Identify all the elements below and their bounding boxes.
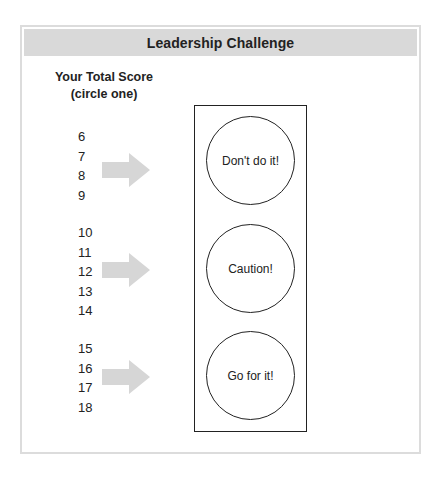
light-caution-label: Caution! bbox=[228, 262, 273, 276]
arrow-right-icon bbox=[102, 153, 150, 187]
panel-title: Leadership Challenge bbox=[24, 29, 417, 56]
light-stop: Don't do it! bbox=[206, 116, 295, 205]
traffic-light-box: Don't do it! Caution! Go for it! bbox=[194, 105, 307, 432]
light-stop-label: Don't do it! bbox=[222, 154, 279, 168]
score-15[interactable]: 15 bbox=[78, 339, 118, 359]
light-go-label: Go for it! bbox=[227, 369, 273, 383]
light-go: Go for it! bbox=[206, 331, 295, 420]
score-10[interactable]: 10 bbox=[78, 223, 118, 243]
light-caution: Caution! bbox=[206, 224, 295, 313]
score-header: Your Total Score (circle one) bbox=[44, 69, 164, 103]
score-14[interactable]: 14 bbox=[78, 301, 118, 321]
arrow-right-icon bbox=[102, 253, 150, 287]
score-header-line1: Your Total Score bbox=[44, 69, 164, 86]
score-18[interactable]: 18 bbox=[78, 398, 118, 418]
score-9[interactable]: 9 bbox=[78, 186, 118, 206]
leadership-challenge-panel: Leadership Challenge Your Total Score (c… bbox=[20, 25, 421, 454]
score-header-line2: (circle one) bbox=[44, 86, 164, 103]
score-6[interactable]: 6 bbox=[78, 127, 118, 147]
arrow-right-icon bbox=[102, 360, 150, 394]
